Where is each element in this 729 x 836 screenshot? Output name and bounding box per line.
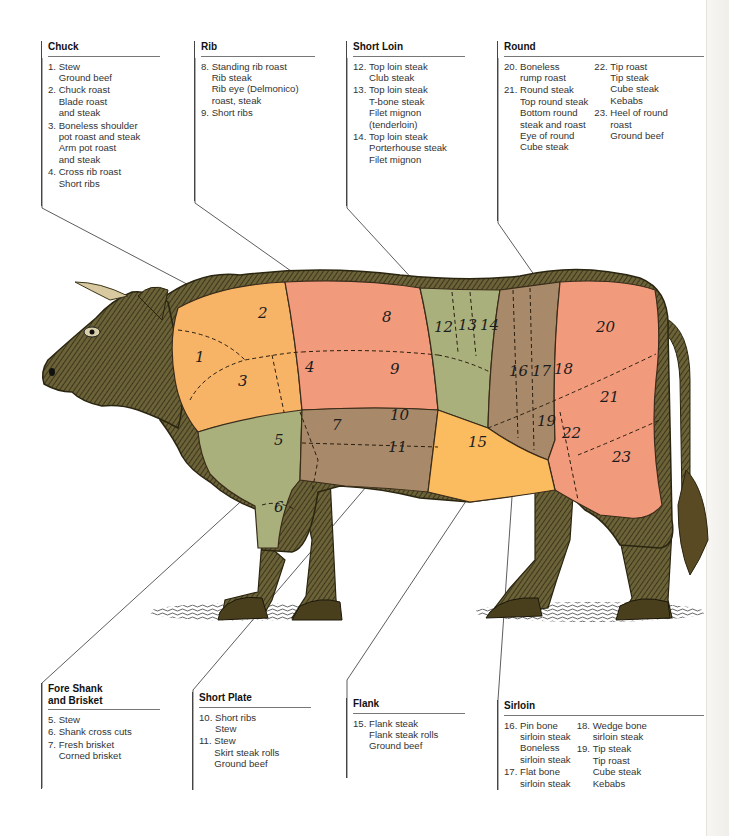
cut-label-7: 7 — [332, 416, 342, 434]
cut-label-2: 2 — [257, 304, 268, 322]
legend-item: 12. Top loin steakClub steak — [353, 61, 465, 84]
legend-item: 7. Fresh brisketCorned brisket — [48, 739, 160, 762]
cut-label-17: 17 — [532, 362, 552, 380]
cut-label-16: 16 — [509, 362, 529, 380]
cut-label-13: 13 — [458, 316, 477, 334]
legend-item: 15. Flank steakFlank steak rollsGround b… — [353, 718, 465, 752]
cut-label-6: 6 — [274, 498, 284, 516]
cut-label-5: 5 — [274, 431, 284, 449]
cut-label-10: 10 — [390, 406, 410, 424]
legend-sirloin: Sirloin 16. Pin bonesirloin steakBoneles… — [497, 700, 704, 790]
legend-item: 11. StewSkirt steak rollsGround beef — [199, 735, 311, 769]
legend-item: 2. Chuck roastBlade roastand steak — [48, 84, 160, 118]
legend-item: 17. Flat bonesirloin steak — [504, 766, 571, 789]
legend-title: Round — [504, 41, 704, 57]
cut-label-1: 1 — [195, 348, 205, 366]
cut-label-14: 14 — [480, 316, 499, 334]
legend-item: 9. Short ribs — [201, 107, 315, 118]
cut-label-4: 4 — [304, 358, 315, 376]
legend-title: Flank — [353, 698, 465, 714]
legend-title: Short Plate — [199, 692, 311, 708]
legend-column-1: 16. Pin bonesirloin steakBonelesssirloin… — [504, 720, 571, 790]
legend-title: Short Loin — [353, 41, 465, 57]
legend-column-2: 18. Wedge bonesirloin steak 19. Tip stea… — [577, 720, 647, 790]
cut-label-19: 19 — [537, 412, 557, 430]
legend-item: 21. Round steakTop round steakBottom rou… — [504, 84, 588, 152]
legend-item: 20. Bonelessrump roast — [504, 61, 588, 84]
legend-item: 18. Wedge bonesirloin steak — [577, 720, 647, 743]
legend-round: Round 20. Bonelessrump roast 21. Round s… — [497, 41, 704, 221]
legend-item: 13. Top loin steakT-bone steakFilet mign… — [353, 84, 465, 130]
legend-item: 4. Cross rib roastShort ribs — [48, 166, 160, 189]
legend-title: Fore Shankand Brisket — [48, 683, 160, 710]
cut-label-22: 22 — [561, 424, 581, 442]
region-short-plate — [300, 408, 438, 492]
legend-item: 16. Pin bonesirloin steakBonelesssirloin… — [504, 720, 571, 766]
cut-label-3: 3 — [238, 372, 248, 390]
legend-short-plate: Short Plate 10. Short ribsStew 11. StewS… — [192, 692, 311, 790]
region-chuck — [172, 282, 302, 432]
legend-item: 1. StewGround beef — [48, 61, 160, 84]
legend-flank: Flank 15. Flank steakFlank steak rollsGr… — [346, 698, 465, 778]
legend-column-2: 22. Tip roastTip steakCube steakKebabs 2… — [594, 61, 668, 154]
legend-column-1: 20. Bonelessrump roast 21. Round steakTo… — [504, 61, 588, 154]
legend-short-loin: Short Loin 12. Top loin steakClub steak … — [346, 41, 465, 206]
cut-label-21: 21 — [599, 388, 619, 406]
legend-title: Chuck — [48, 41, 160, 57]
cut-label-18: 18 — [554, 360, 573, 378]
cut-label-11: 11 — [388, 438, 407, 456]
cut-label-9: 9 — [390, 360, 400, 378]
cut-label-23: 23 — [611, 448, 631, 466]
legend-item: 22. Tip roastTip steakCube steakKebabs — [594, 61, 668, 107]
legend-title: Sirloin — [504, 700, 704, 716]
legend-fore-shank-brisket: Fore Shankand Brisket 5. Stew 6. Shank c… — [41, 683, 160, 789]
legend-title: Rib — [201, 41, 315, 57]
cut-regions — [172, 281, 662, 548]
legend-item: 19. Tip steakTip roastCube steakKebabs — [577, 743, 647, 789]
legend-item: 8. Standing rib roastRib steakRib eye (D… — [201, 61, 315, 107]
legend-item: 23. Heel of roundroastGround beef — [594, 107, 668, 141]
legend-rib: Rib 8. Standing rib roastRib steakRib ey… — [194, 41, 315, 201]
legend-item: 6. Shank cross cuts — [48, 726, 160, 737]
cut-label-20: 20 — [595, 318, 616, 336]
legend-item: 14. Top loin steakPorterhouse steakFilet… — [353, 131, 465, 165]
cut-label-8: 8 — [382, 308, 392, 326]
legend-item: 5. Stew — [48, 714, 160, 725]
legend-chuck: Chuck 1. StewGround beef 2. Chuck roastB… — [41, 41, 160, 206]
region-rib — [285, 281, 438, 410]
legend-item: 10. Short ribsStew — [199, 712, 311, 735]
legend-item: 3. Boneless shoulderpot roast and steakA… — [48, 120, 160, 166]
cow-head — [43, 282, 183, 428]
cut-label-12: 12 — [434, 318, 453, 336]
cut-label-15: 15 — [468, 433, 487, 451]
